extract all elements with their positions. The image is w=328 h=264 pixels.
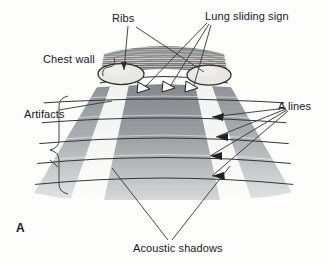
panel-label: A (16, 222, 25, 234)
rib-right (187, 65, 231, 85)
label-chest-wall: Chest wall (43, 53, 95, 65)
label-artifacts: Artifacts (24, 108, 65, 120)
rib-left (98, 64, 144, 85)
label-acoustic-shadows: Acoustic shadows (133, 242, 223, 254)
label-lung-sliding-sign: Lung sliding sign (205, 10, 289, 22)
label-a-lines: A lines (278, 100, 311, 112)
lung-ultrasound-diagram (0, 0, 328, 264)
label-ribs: Ribs (112, 12, 134, 24)
figure-panel: Ribs Lung sliding sign Chest wall Artifa… (0, 0, 328, 264)
